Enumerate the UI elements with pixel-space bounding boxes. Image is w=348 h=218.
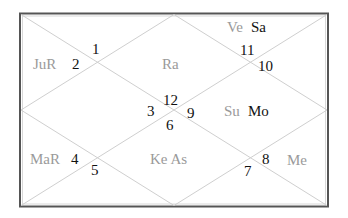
house-number: 9: [187, 106, 195, 121]
house-number: 2: [72, 57, 80, 72]
planet-label: Sa: [251, 20, 266, 35]
planet-label: Ra: [162, 57, 179, 72]
planet-label: Ve: [227, 20, 243, 35]
planet-label: Ke As: [150, 152, 187, 167]
house-number: 10: [258, 59, 273, 74]
house-number: 7: [244, 164, 252, 179]
kundali-chart: JuR 2 1 Ra Ve Sa 11 10 12 3 9 6 Su Mo Ma…: [0, 0, 348, 218]
chart-frame: [0, 0, 348, 218]
house-number: 4: [71, 152, 79, 167]
house-number: 8: [262, 152, 270, 167]
house-number: 12: [163, 93, 178, 108]
house-number: 1: [92, 42, 100, 57]
planet-label: MaR: [30, 152, 60, 167]
planet-label: Su: [224, 104, 240, 119]
house-number: 11: [240, 43, 254, 58]
planet-label: Me: [287, 153, 307, 168]
house-number: 5: [91, 163, 99, 178]
planet-label: Mo: [248, 104, 269, 119]
planet-label: JuR: [33, 57, 56, 72]
house-number: 3: [147, 104, 155, 119]
house-number: 6: [166, 118, 174, 133]
